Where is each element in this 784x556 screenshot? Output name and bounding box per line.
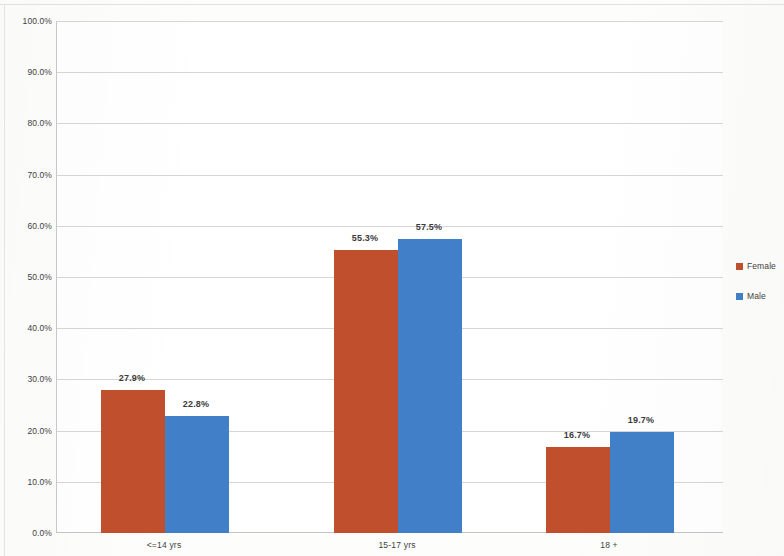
gridline-80 (57, 123, 723, 124)
y-axis-tick-label: 10.0% (0, 477, 52, 487)
y-axis-tick-label: 20.0% (0, 426, 52, 436)
legend-swatch-icon (736, 263, 743, 270)
y-axis-tick-label: 80.0% (0, 118, 52, 128)
y-axis-tick-label: 30.0% (0, 374, 52, 384)
legend-label: Male (747, 291, 766, 301)
gridline-60 (57, 226, 723, 227)
chart-legend: FemaleMale (736, 258, 784, 318)
bar-chart: 100.0%90.0%80.0%70.0%60.0%50.0%40.0%30.0… (0, 0, 784, 556)
x-axis-tick-label: <=14 yrs (147, 540, 182, 550)
y-axis-tick-label: 100.0% (0, 16, 52, 26)
y-axis-tick-label: 70.0% (0, 170, 52, 180)
bar-male-1[interactable] (398, 239, 462, 533)
bar-value-label: 22.8% (183, 399, 210, 409)
legend-item-female[interactable]: Female (736, 258, 784, 274)
y-axis-tick-label: 40.0% (0, 323, 52, 333)
bar-female-1[interactable] (334, 250, 398, 533)
legend-item-male[interactable]: Male (736, 288, 784, 304)
plot-area (56, 21, 722, 533)
bar-male-0[interactable] (165, 416, 229, 533)
y-axis-tick-label: 0.0% (0, 528, 52, 538)
x-axis-tick-label: 15-17 yrs (378, 540, 415, 550)
gridline-100 (57, 21, 723, 22)
page-edge-top-divider (0, 4, 784, 5)
gridline-90 (57, 72, 723, 73)
bar-male-2[interactable] (610, 432, 674, 533)
y-axis-tick-label: 50.0% (0, 272, 52, 282)
y-axis-tick-label: 90.0% (0, 67, 52, 77)
bar-female-0[interactable] (101, 390, 165, 533)
bar-value-label: 55.3% (352, 233, 379, 243)
x-axis-tick-label: 18 + (600, 540, 618, 550)
bar-value-label: 57.5% (416, 222, 443, 232)
legend-label: Female (747, 261, 776, 271)
legend-swatch-icon (736, 293, 743, 300)
bar-female-2[interactable] (546, 447, 610, 533)
bar-value-label: 27.9% (119, 373, 146, 383)
gridline-70 (57, 175, 723, 176)
y-axis-tick-label: 60.0% (0, 221, 52, 231)
bar-value-label: 16.7% (564, 430, 591, 440)
bar-value-label: 19.7% (628, 415, 655, 425)
